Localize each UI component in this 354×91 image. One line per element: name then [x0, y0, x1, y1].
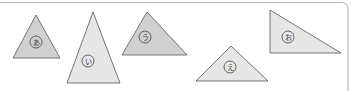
- triangles-diagram: あ い う え お: [0, 0, 354, 91]
- triangle-u-label: う: [142, 34, 149, 42]
- triangle-o: お: [270, 10, 341, 53]
- triangle-i-shape: [67, 12, 120, 83]
- triangle-a: あ: [13, 15, 60, 58]
- triangle-i: い: [67, 12, 120, 83]
- triangle-e: え: [196, 46, 268, 81]
- triangle-a-shape: [13, 15, 60, 58]
- triangle-u-shape: [122, 12, 187, 55]
- triangle-o-shape: [270, 10, 341, 53]
- triangle-i-label: い: [85, 58, 92, 66]
- triangle-e-label: え: [227, 64, 234, 72]
- triangle-o-label: お: [285, 34, 292, 42]
- triangle-a-label: あ: [33, 39, 40, 47]
- triangle-u: う: [122, 12, 187, 55]
